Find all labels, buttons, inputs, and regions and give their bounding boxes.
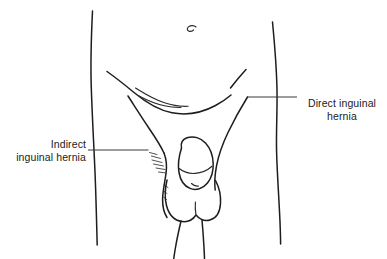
scrotum-contour: [165, 180, 220, 222]
shading-hatch-1: [152, 156, 161, 159]
label-direct-inguinal-hernia: Direct inguinal hernia: [299, 97, 385, 122]
penis-contour: [178, 137, 213, 189]
left-flank-contour: [91, 11, 97, 245]
inguinal-hernia-figure: Direct inguinal hernia Indirect inguinal…: [0, 0, 387, 259]
label-indirect-line-2: inguinal hernia: [2, 151, 86, 164]
inguinal-crease-second: [136, 88, 189, 106]
scrotum-raphe: [195, 202, 196, 215]
right-flank-contour: [273, 22, 281, 244]
right-inguinal-crease: [231, 70, 247, 89]
shading-hatch-3: [154, 164, 164, 166]
label-direct-line-1: Direct inguinal: [299, 97, 385, 110]
label-direct-line-2: hernia: [299, 110, 385, 123]
glans-contour: [179, 166, 212, 173]
label-indirect-line-1: Indirect: [2, 138, 86, 151]
navel-icon: [187, 26, 196, 32]
shading-hatch-2: [152, 160, 162, 163]
inguinal-crease-main: [107, 72, 231, 114]
right-thigh-contour: [202, 220, 205, 259]
anatomy-illustration: [0, 0, 387, 259]
left-thigh-contour: [174, 221, 181, 259]
penis-tip-mark: [192, 184, 199, 187]
shading-hatch-4: [156, 168, 165, 170]
shading-hatch-6: [150, 153, 158, 155]
shading-hatch-5: [159, 172, 167, 173]
label-indirect-inguinal-hernia: Indirect inguinal hernia: [2, 138, 86, 163]
right-groin-fold: [215, 97, 248, 190]
